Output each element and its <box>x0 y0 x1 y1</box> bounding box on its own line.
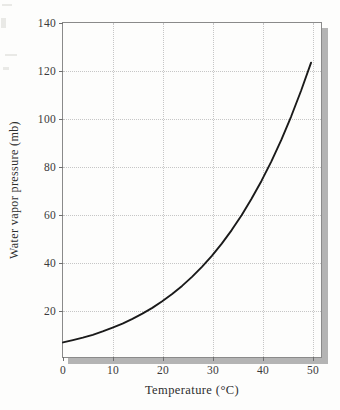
figure-page: 2040608010012014001020304050 Water vapor… <box>0 0 340 410</box>
x-tick-mark <box>163 357 164 361</box>
scan-artifact <box>2 4 12 6</box>
y-tick-label: 40 <box>44 257 56 269</box>
x-tick-mark <box>113 357 114 361</box>
y-tick-label: 120 <box>38 65 56 77</box>
y-tick-label: 140 <box>38 17 56 29</box>
x-tick-mark <box>313 357 314 361</box>
y-tick-label: 100 <box>38 113 56 125</box>
plot-area: 2040608010012014001020304050 <box>62 22 322 358</box>
x-tick-mark <box>63 357 64 361</box>
x-tick-label: 40 <box>257 364 269 376</box>
scan-artifact <box>5 54 17 56</box>
y-tick-label: 20 <box>44 305 56 317</box>
x-tick-label: 30 <box>207 364 219 376</box>
x-tick-label: 10 <box>107 364 119 376</box>
y-tick-label: 60 <box>44 209 56 221</box>
x-tick-mark <box>263 357 264 361</box>
x-tick-label: 20 <box>157 364 169 376</box>
y-tick-label: 80 <box>44 161 56 173</box>
vapor-pressure-curve <box>63 23 321 357</box>
x-tick-label: 0 <box>60 364 66 376</box>
x-tick-mark <box>213 357 214 361</box>
x-tick-label: 50 <box>307 364 319 376</box>
figure-shadow-right <box>322 28 328 364</box>
y-axis-label: Water vapor pressure (mb) <box>7 121 22 259</box>
scan-artifact <box>3 67 9 70</box>
scan-artifact <box>1 18 6 28</box>
x-axis-label: Temperature (°C) <box>145 383 239 398</box>
